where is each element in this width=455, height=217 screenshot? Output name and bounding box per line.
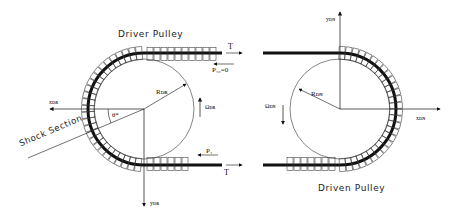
driver-omega-label: Ωᴅʀ	[205, 104, 216, 110]
driven-omega-label: Ωᴅɴ	[265, 103, 276, 109]
driver-pulley-title: Driver Pulley	[118, 30, 183, 39]
driver-load-bottom-label: P₁	[206, 148, 212, 155]
driven-pulley	[263, 12, 440, 165]
belt-drive-diagram: Driver Pulley T P₁₀=0 Rᴅʀ Ωᴅʀ xᴅʀ θ* Sho…	[0, 0, 455, 217]
driver-x-axis-label: xᴅʀ	[49, 99, 58, 105]
driver-load-top-label: P₁₀=0	[212, 67, 228, 74]
driver-radius-label: Rᴅʀ	[156, 89, 168, 96]
driver-tension-top-label: T	[228, 43, 233, 51]
driven-pulley-title: Driven Pulley	[318, 184, 385, 193]
theta-label: θ*	[112, 112, 119, 119]
driver-y-axis-label: yᴅʀ	[150, 200, 159, 206]
driven-radius-label: Rᴅɴ	[311, 91, 323, 98]
driven-x-axis-label: xᴅɴ	[416, 115, 425, 121]
driven-y-axis-label: yᴅɴ	[326, 16, 335, 22]
theta-arc	[108, 109, 111, 123]
driver-tension-bottom-label: T	[224, 169, 229, 177]
diagram-graphics	[0, 0, 455, 217]
